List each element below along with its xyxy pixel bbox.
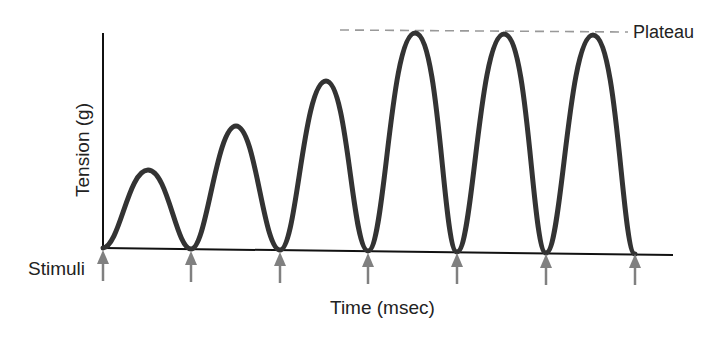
stimulus-arrows xyxy=(97,250,641,285)
treppe-chart xyxy=(0,0,721,343)
arrow-icon xyxy=(540,254,552,285)
x-axis-label: Time (msec) xyxy=(330,297,435,319)
arrow-icon xyxy=(629,254,641,285)
arrow-icon xyxy=(185,251,197,282)
arrow-icon xyxy=(274,252,286,283)
arrow-icon xyxy=(97,250,109,281)
y-axis-label: Tension (g) xyxy=(72,103,94,197)
stimuli-label: Stimuli xyxy=(28,258,85,280)
arrow-icon xyxy=(451,253,463,284)
arrow-icon xyxy=(362,253,374,284)
tension-curve xyxy=(103,33,635,254)
plateau-label: Plateau xyxy=(633,22,694,43)
plateau-line xyxy=(340,30,628,32)
